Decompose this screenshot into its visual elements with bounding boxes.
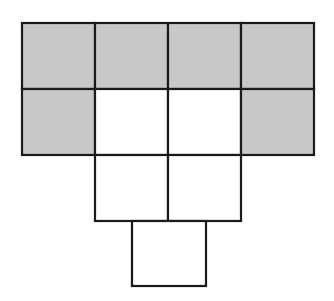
empty-cell-10 xyxy=(132,221,206,286)
shaded-cell-2 xyxy=(168,23,241,89)
grid-diagram xyxy=(0,0,334,301)
empty-cell-6 xyxy=(168,89,241,155)
empty-cell-9 xyxy=(168,155,241,221)
shaded-cell-1 xyxy=(95,23,168,89)
grid-cells xyxy=(22,23,314,286)
shaded-cell-3 xyxy=(241,23,314,89)
shaded-cell-0 xyxy=(22,23,95,89)
empty-cell-8 xyxy=(95,155,168,221)
shaded-cell-7 xyxy=(241,89,314,155)
shaded-cell-4 xyxy=(22,89,95,155)
empty-cell-5 xyxy=(95,89,168,155)
